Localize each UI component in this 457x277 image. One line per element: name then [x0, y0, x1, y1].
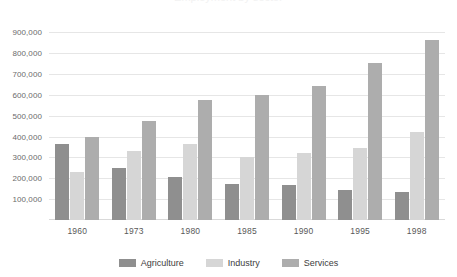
bar-industry[interactable] [127, 151, 141, 220]
y-axis-tick-label: 800,000 [12, 49, 42, 58]
bar-group [388, 22, 445, 220]
bar-industry[interactable] [410, 132, 424, 220]
legend-item-industry[interactable]: Industry [206, 258, 260, 268]
y-axis-tick-label: 400,000 [12, 132, 42, 141]
legend-label: Industry [228, 258, 260, 268]
x-axis-tick-label: 1973 [124, 226, 144, 236]
y-axis-tick-label: 600,000 [12, 90, 42, 99]
bar-industry[interactable] [183, 144, 197, 220]
plot-area [49, 22, 445, 220]
x-axis-tick-label: 1990 [294, 226, 314, 236]
bar-group [106, 22, 163, 220]
legend-item-services[interactable]: Services [282, 258, 339, 268]
y-axis-tick-label: 100,000 [12, 195, 42, 204]
legend-item-agriculture[interactable]: Agriculture [119, 258, 184, 268]
bar-agriculture[interactable] [55, 144, 69, 220]
x-axis-tick-label: 1960 [67, 226, 87, 236]
bar-services[interactable] [142, 121, 156, 220]
x-axis-tick-label: 1980 [181, 226, 201, 236]
bar-agriculture[interactable] [225, 184, 239, 220]
bar-group [275, 22, 332, 220]
bar-services[interactable] [368, 63, 382, 220]
chart-title-text: Employment by sector [0, 0, 457, 3]
legend-swatch-icon [119, 259, 136, 267]
bar-services[interactable] [425, 40, 439, 220]
bar-industry[interactable] [353, 148, 367, 220]
y-axis-tick-label: 200,000 [12, 174, 42, 183]
bar-agriculture[interactable] [282, 185, 296, 220]
chart-title-cropped: Employment by sector [0, 0, 457, 7]
bar-industry[interactable] [70, 172, 84, 220]
bar-services[interactable] [85, 137, 99, 220]
x-axis-tick-label: 1985 [237, 226, 257, 236]
bar-services[interactable] [312, 86, 326, 220]
legend-swatch-icon [282, 259, 299, 267]
y-axis-labels: 100,000200,000300,000400,000500,000600,0… [0, 22, 45, 220]
y-axis-tick-label: 700,000 [12, 70, 42, 79]
bar-services[interactable] [198, 100, 212, 220]
bar-agriculture[interactable] [168, 177, 182, 220]
x-axis-tick-label: 1995 [350, 226, 370, 236]
bar-group [219, 22, 276, 220]
bar-services[interactable] [255, 95, 269, 220]
bar-chart: Employment by sector 100,000200,000300,0… [0, 0, 457, 277]
chart-legend: AgricultureIndustryServices [0, 258, 457, 268]
legend-label: Agriculture [141, 258, 184, 268]
bar-group [162, 22, 219, 220]
bar-group [49, 22, 106, 220]
legend-swatch-icon [206, 259, 223, 267]
y-axis-tick-label: 300,000 [12, 153, 42, 162]
y-axis-tick-label: 500,000 [12, 111, 42, 120]
bar-agriculture[interactable] [395, 192, 409, 220]
bar-group [332, 22, 389, 220]
x-axis-labels: 1960197319801985199019951998 [49, 226, 445, 240]
y-axis-tick-label: 900,000 [12, 28, 42, 37]
legend-label: Services [304, 258, 339, 268]
bar-industry[interactable] [297, 153, 311, 220]
bar-industry[interactable] [240, 157, 254, 220]
x-axis-tick-label: 1998 [407, 226, 427, 236]
bar-agriculture[interactable] [338, 190, 352, 220]
bar-agriculture[interactable] [112, 168, 126, 220]
